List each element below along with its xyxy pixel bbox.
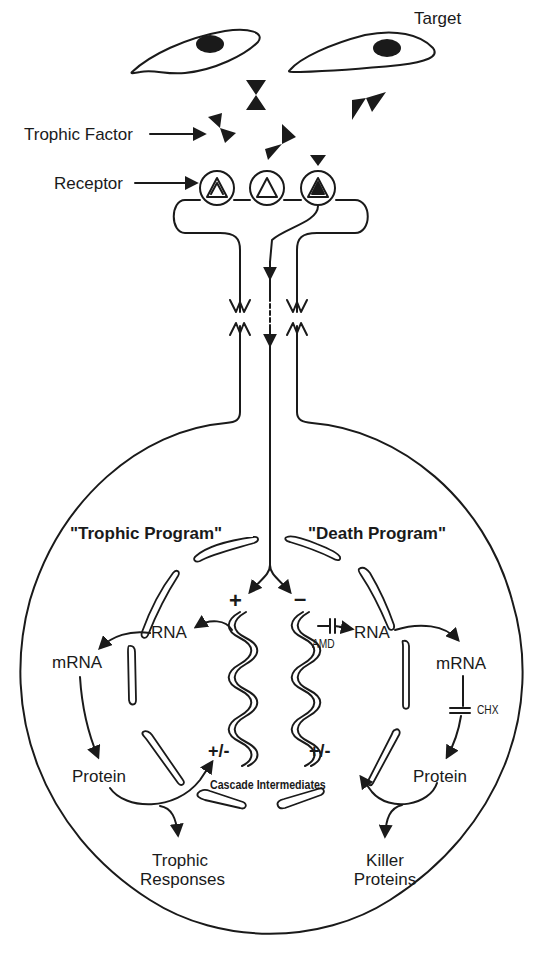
target-label: Target [414, 10, 461, 27]
chx-label: CHX [477, 704, 499, 716]
amd-label: AMD [312, 638, 335, 650]
minus-sign: – [294, 588, 306, 610]
target-cell-left [131, 30, 259, 74]
left-protein-label: Protein [72, 768, 126, 785]
arrow-mrna-to-protein-right [447, 716, 461, 757]
membrane-top [174, 200, 240, 312]
left-mrna-label: mRNA [52, 654, 102, 671]
receptor-icon [200, 171, 234, 205]
killer-proteins-line1: Killer [348, 852, 422, 869]
arrow-to-killer-proteins [385, 805, 402, 836]
killer-proteins-line2: Proteins [348, 871, 422, 888]
trophic-factor-label: Trophic Factor [24, 126, 133, 143]
amd-inhibitor [318, 619, 348, 633]
signal-path [270, 206, 318, 300]
killer-proteins-label: Killer Proteins [348, 852, 422, 888]
ligand-icon [265, 124, 296, 160]
target-cell-right [289, 33, 435, 72]
right-protein-label: Protein [413, 768, 467, 785]
nuclear-envelope [128, 536, 409, 808]
arrow-mrna-to-protein-left [80, 677, 98, 757]
trophic-responses-line2: Responses [140, 871, 220, 888]
ligand-icon [310, 155, 326, 166]
trophic-factor-ligands [208, 80, 386, 166]
right-mrna-label: mRNA [436, 655, 486, 672]
arrow-to-trophic-responses [160, 806, 178, 835]
ligand-icon [246, 80, 266, 110]
trophic-program-label: "Trophic Program" [70, 525, 222, 542]
right-plus-minus-label: +/- [309, 742, 331, 760]
receptor-label: Receptor [54, 175, 123, 192]
receptor-icon [250, 171, 284, 205]
trophic-responses-label: Trophic Responses [140, 852, 220, 888]
left-rna-label: RNA [151, 624, 187, 641]
target-nucleus-icon [196, 35, 224, 53]
ligand-icon [208, 113, 236, 143]
membrane-top [297, 200, 368, 312]
ligand-icon [352, 92, 386, 120]
dna-helix-left [229, 612, 258, 766]
left-plus-minus-label: +/- [208, 742, 230, 760]
right-rna-label: RNA [354, 624, 390, 641]
target-nucleus-icon [373, 39, 401, 57]
cascade-intermediates-label: Cascade Intermediates [210, 779, 326, 792]
receptor-bound-icon [301, 171, 335, 205]
death-program-label: "Death Program" [308, 525, 446, 542]
arrow-dna-to-rna-left [196, 621, 232, 630]
chx-inhibitor [450, 708, 470, 713]
plus-sign: + [229, 590, 242, 612]
arrow-rna-to-mrna-right [395, 626, 458, 640]
trophic-responses-line1: Trophic [140, 852, 220, 869]
